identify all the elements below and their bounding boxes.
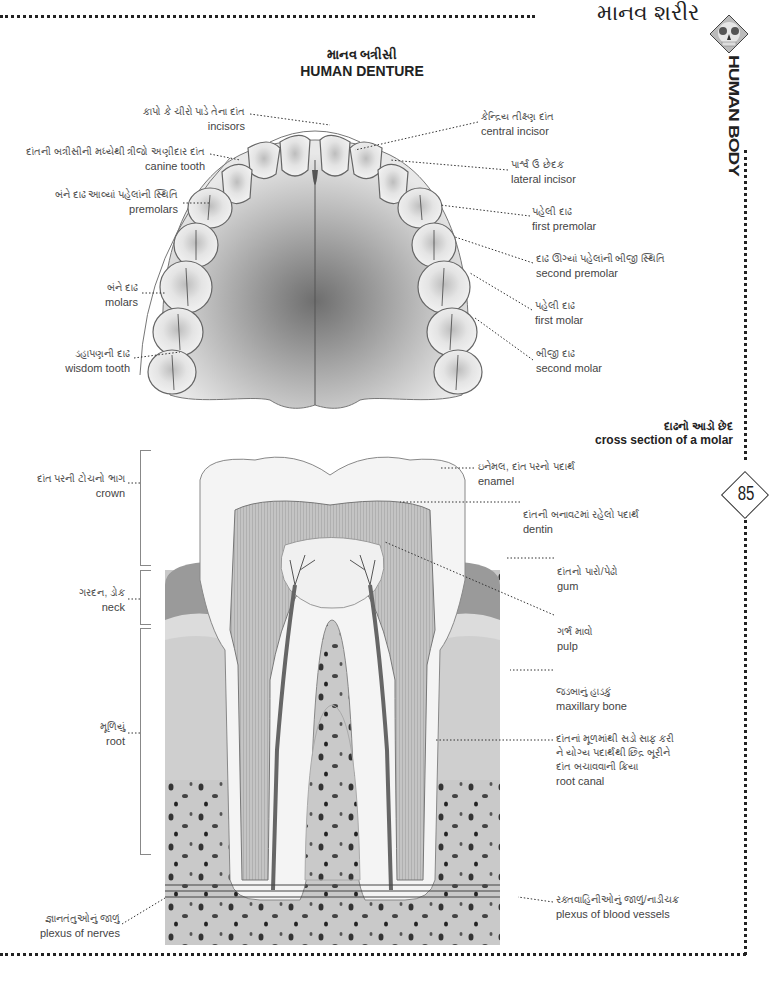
denture-leader-lines	[0, 0, 761, 440]
molar-leader-lines	[0, 440, 761, 960]
molar-title-gu: દાઢનો આડો છેદ	[530, 420, 733, 433]
